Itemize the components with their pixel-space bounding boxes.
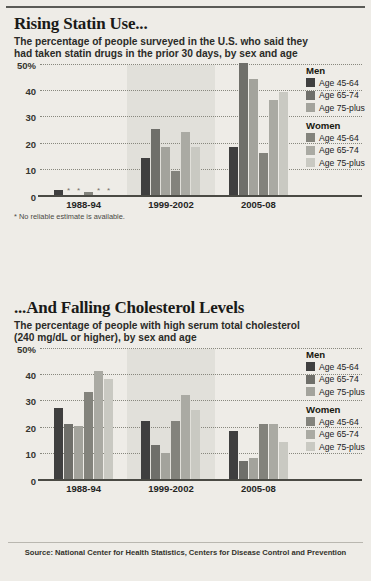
y-axis-tick-label: 10 <box>25 165 40 176</box>
bar-groups: **** <box>40 65 302 195</box>
bar-group <box>127 349 214 479</box>
legend-swatch-icon <box>306 442 315 451</box>
legend-group: WomenAge 45-64Age 65-74Age 75-plus <box>306 404 371 452</box>
x-axis-category-label: 2005-08 <box>215 199 302 210</box>
legend-item-label: Age 65-74 <box>319 429 359 439</box>
top-rule <box>6 6 365 8</box>
bar <box>259 153 268 195</box>
bar <box>84 392 93 479</box>
legend-item[interactable]: Age 75-plus <box>306 103 371 113</box>
legend-group: MenAge 45-64Age 65-74Age 75-plus <box>306 349 371 397</box>
bar-groups <box>40 349 302 479</box>
y-axis-tick-label: 30 <box>25 396 40 407</box>
x-axis-line <box>38 479 362 481</box>
legend-swatch-icon <box>306 430 315 439</box>
bar <box>229 147 238 195</box>
legend-item[interactable]: Age 45-64 <box>306 362 371 372</box>
bar <box>141 421 150 479</box>
bar <box>259 424 268 479</box>
legend-item[interactable]: Age 45-64 <box>306 78 371 88</box>
plot-wrapper-cholesterol: 1020304050%0 1988-941999-20022005-08 Men… <box>14 349 359 494</box>
bar <box>161 453 170 479</box>
legend-item-label: Age 75-plus <box>319 387 365 397</box>
bar <box>239 63 248 195</box>
no-data-marker: * <box>94 184 103 195</box>
legend-item-label: Age 45-64 <box>319 133 359 143</box>
infographic-page: Rising Statin Use... The percentage of p… <box>0 0 371 581</box>
legend-swatch-icon <box>306 91 315 100</box>
no-data-marker: * <box>74 184 83 195</box>
bar <box>54 190 63 195</box>
bar <box>141 158 150 195</box>
bar <box>181 132 190 195</box>
bar <box>249 79 258 195</box>
y-axis-tick-label: 40 <box>25 86 40 97</box>
legend-item[interactable]: Age 65-74 <box>306 90 371 100</box>
bar-group: **** <box>40 65 127 195</box>
legend-item-label: Age 65-74 <box>319 374 359 384</box>
y-axis-tick-label: 40 <box>25 370 40 381</box>
bar <box>269 424 278 479</box>
legend-statin: MenAge 45-64Age 65-74Age 75-plusWomenAge… <box>306 65 371 175</box>
bar <box>161 147 170 195</box>
legend-item[interactable]: Age 75-plus <box>306 442 371 452</box>
y-axis-tick-label: 30 <box>25 112 40 123</box>
legend-item[interactable]: Age 65-74 <box>306 429 371 439</box>
y-axis-tick-label: 0 <box>31 475 40 486</box>
no-data-marker: * <box>64 184 73 195</box>
source-note: Source: National Center for Health Stati… <box>0 548 371 557</box>
bar <box>151 129 160 195</box>
legend-swatch-icon <box>306 362 315 371</box>
plot-area-cholesterol: 1020304050%0 <box>40 349 302 481</box>
y-axis-tick-label: 20 <box>25 422 40 433</box>
legend-cholesterol: MenAge 45-64Age 65-74Age 75-plusWomenAge… <box>306 349 371 459</box>
legend-swatch-icon <box>306 133 315 142</box>
legend-item-label: Age 45-64 <box>319 417 359 427</box>
legend-swatch-icon <box>306 146 315 155</box>
x-axis-category-label: 2005-08 <box>215 483 302 494</box>
bar <box>84 192 93 195</box>
legend-item[interactable]: Age 45-64 <box>306 417 371 427</box>
bar <box>74 426 83 479</box>
bar-group <box>215 349 302 479</box>
legend-item[interactable]: Age 65-74 <box>306 374 371 384</box>
legend-item[interactable]: Age 45-64 <box>306 133 371 143</box>
y-axis-tick-label: 10 <box>25 449 40 460</box>
legend-heading: Women <box>306 120 371 131</box>
bar <box>269 100 278 195</box>
plot-area-statin: 1020304050%0**** <box>40 65 302 197</box>
legend-heading: Men <box>306 349 371 360</box>
chart-title-cholesterol: ...And Falling Cholesterol Levels <box>14 298 371 318</box>
x-axis-category-label: 1999-2002 <box>127 199 214 210</box>
legend-swatch-icon <box>306 387 315 396</box>
legend-item[interactable]: Age 65-74 <box>306 145 371 155</box>
bar-group <box>127 65 214 195</box>
x-axis-category-label: 1999-2002 <box>127 483 214 494</box>
legend-item[interactable]: Age 75-plus <box>306 387 371 397</box>
y-axis-tick-label: 50% <box>17 59 40 70</box>
bar-group <box>40 349 127 479</box>
chart-subtitle-cholesterol: The percentage of people with high serum… <box>14 320 314 345</box>
y-axis-tick-label: 0 <box>31 191 40 202</box>
bar <box>171 421 180 479</box>
plot-wrapper-statin: 1020304050%0**** 1988-941999-20022005-08… <box>14 65 359 210</box>
source-rule <box>8 542 363 543</box>
bar <box>151 445 160 479</box>
x-axis-line <box>38 195 362 197</box>
bar <box>64 424 73 479</box>
legend-item-label: Age 65-74 <box>319 145 359 155</box>
footnote-statin: * No reliable estimate is available. <box>14 212 371 221</box>
bar <box>171 171 180 195</box>
x-axis-category-label: 1988-94 <box>40 199 127 210</box>
bar <box>94 371 103 479</box>
chart-panel-statin-use: Rising Statin Use... The percentage of p… <box>0 14 371 221</box>
bar-group <box>215 65 302 195</box>
x-axis-labels-statin: 1988-941999-20022005-08 <box>40 199 302 210</box>
bar <box>279 442 288 479</box>
bar <box>54 408 63 479</box>
bar <box>249 458 258 479</box>
x-axis-category-label: 1988-94 <box>40 483 127 494</box>
legend-swatch-icon <box>306 158 315 167</box>
legend-item[interactable]: Age 75-plus <box>306 158 371 168</box>
legend-item-label: Age 45-64 <box>319 78 359 88</box>
